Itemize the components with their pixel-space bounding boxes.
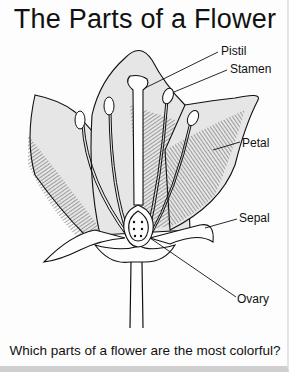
label-stamen: Stamen (230, 62, 271, 76)
question-text: Which parts of a flower are the most col… (0, 343, 290, 358)
label-pistil: Pistil (221, 44, 246, 58)
label-sepal: Sepal (239, 211, 270, 225)
flower-illustration (0, 0, 290, 374)
label-ovary: Ovary (237, 292, 269, 306)
label-petal: Petal (242, 136, 269, 150)
stem (130, 262, 143, 328)
